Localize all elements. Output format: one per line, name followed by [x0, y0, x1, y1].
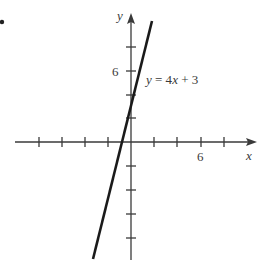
y-axis-label: y	[115, 8, 123, 23]
eq-tail: + 3	[178, 72, 198, 87]
equation-annotation: y = 4x + 3	[144, 72, 198, 87]
series-line-y-4x-plus-3	[93, 21, 152, 259]
x-tick-label-6: 6	[197, 149, 204, 164]
line-chart: y x 6 6 y = 4x + 3	[0, 0, 258, 263]
problem-marker-dot	[0, 20, 4, 24]
x-axis-label: x	[245, 148, 252, 163]
y-tick-label-6: 6	[112, 64, 119, 79]
eq-eq4: = 4	[152, 72, 173, 87]
